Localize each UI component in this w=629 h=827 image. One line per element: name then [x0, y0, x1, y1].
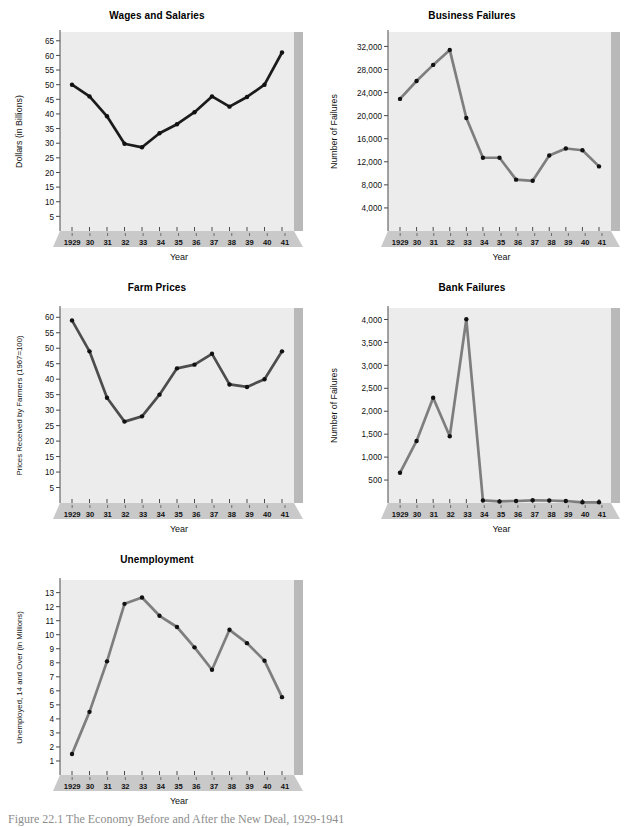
chart-panel-wages-and-salaries: Wages and Salaries 510152025303540455055… — [0, 0, 314, 272]
svg-text:38: 38 — [228, 238, 236, 247]
svg-text:3,000: 3,000 — [362, 362, 383, 371]
svg-text:34: 34 — [157, 238, 166, 247]
svg-text:37: 37 — [210, 238, 218, 247]
svg-text:6: 6 — [49, 687, 54, 696]
svg-text:55: 55 — [45, 329, 55, 338]
svg-text:5: 5 — [49, 213, 54, 222]
svg-text:10: 10 — [45, 631, 55, 640]
svg-text:Year: Year — [492, 524, 510, 534]
svg-text:3: 3 — [49, 729, 54, 738]
svg-text:30: 30 — [413, 510, 421, 519]
svg-text:4,000: 4,000 — [362, 204, 383, 213]
svg-text:10: 10 — [45, 468, 55, 477]
svg-text:40: 40 — [263, 238, 271, 247]
svg-text:45: 45 — [45, 360, 55, 369]
svg-text:1929: 1929 — [392, 510, 409, 519]
svg-text:41: 41 — [598, 510, 607, 519]
svg-text:37: 37 — [530, 238, 538, 247]
svg-text:39: 39 — [564, 510, 572, 519]
svg-text:30: 30 — [86, 510, 94, 519]
svg-text:35: 35 — [497, 510, 506, 519]
svg-text:500: 500 — [368, 476, 382, 485]
svg-text:30: 30 — [45, 139, 55, 148]
svg-text:45: 45 — [45, 96, 55, 105]
svg-text:20: 20 — [45, 437, 55, 446]
svg-text:13: 13 — [45, 589, 55, 598]
svg-text:30: 30 — [86, 238, 94, 247]
svg-text:1929: 1929 — [392, 238, 409, 247]
svg-text:32: 32 — [121, 238, 129, 247]
svg-text:50: 50 — [45, 81, 55, 90]
svg-text:12,000: 12,000 — [357, 158, 382, 167]
svg-text:65: 65 — [45, 37, 55, 46]
svg-text:36: 36 — [192, 510, 200, 519]
svg-text:36: 36 — [192, 782, 200, 791]
svg-text:38: 38 — [547, 510, 555, 519]
svg-text:Unemployed, 14 and Over (in Mi: Unemployed, 14 and Over (in Millions) — [15, 611, 24, 744]
svg-text:55: 55 — [45, 66, 55, 75]
svg-text:31: 31 — [430, 510, 439, 519]
svg-text:40: 40 — [581, 238, 589, 247]
svg-text:39: 39 — [245, 238, 253, 247]
svg-text:34: 34 — [157, 510, 166, 519]
svg-text:34: 34 — [480, 510, 489, 519]
svg-text:Year: Year — [170, 524, 188, 534]
svg-text:1: 1 — [49, 757, 54, 766]
svg-text:Prices Received by Farmers (19: Prices Received by Farmers (1967=100) — [15, 335, 24, 476]
svg-text:12: 12 — [45, 603, 55, 612]
svg-text:32,000: 32,000 — [357, 43, 382, 52]
svg-text:35: 35 — [174, 238, 183, 247]
chart-canvas-bank-failures: 5001,0001,5002,0002,5003,0003,5004,000Nu… — [315, 272, 629, 548]
svg-text:15: 15 — [45, 453, 55, 462]
svg-text:41: 41 — [281, 238, 290, 247]
svg-text:25: 25 — [45, 154, 55, 163]
svg-text:16,000: 16,000 — [357, 135, 382, 144]
svg-text:41: 41 — [281, 782, 290, 791]
svg-text:35: 35 — [45, 391, 55, 400]
svg-text:36: 36 — [514, 238, 522, 247]
svg-text:2,000: 2,000 — [362, 407, 383, 416]
svg-text:33: 33 — [463, 238, 471, 247]
chart-canvas-farm-prices: 51015202530354045505560Prices Received b… — [0, 272, 314, 548]
svg-text:7: 7 — [49, 673, 54, 682]
svg-text:38: 38 — [228, 510, 236, 519]
svg-text:4,000: 4,000 — [362, 316, 383, 325]
svg-text:41: 41 — [281, 510, 290, 519]
svg-text:32: 32 — [121, 782, 129, 791]
svg-text:33: 33 — [139, 510, 147, 519]
svg-text:40: 40 — [45, 110, 55, 119]
svg-text:39: 39 — [245, 510, 253, 519]
svg-text:Number of Failures: Number of Failures — [329, 94, 339, 169]
svg-text:5: 5 — [49, 484, 54, 493]
svg-text:50: 50 — [45, 344, 55, 353]
svg-text:38: 38 — [547, 238, 555, 247]
svg-text:60: 60 — [45, 52, 55, 61]
svg-text:1929: 1929 — [64, 238, 81, 247]
chart-panel-farm-prices: Farm Prices 51015202530354045505560Price… — [0, 272, 314, 544]
svg-text:1,500: 1,500 — [362, 430, 383, 439]
svg-text:35: 35 — [497, 238, 506, 247]
figure-caption: Figure 22.1 The Economy Before and After… — [8, 812, 618, 827]
svg-text:8: 8 — [49, 659, 54, 668]
svg-text:31: 31 — [103, 510, 112, 519]
svg-text:35: 35 — [174, 782, 183, 791]
svg-text:1929: 1929 — [64, 510, 81, 519]
svg-text:20: 20 — [45, 169, 55, 178]
svg-text:1,000: 1,000 — [362, 453, 383, 462]
svg-text:40: 40 — [45, 375, 55, 384]
svg-text:32: 32 — [446, 238, 454, 247]
svg-text:60: 60 — [45, 313, 55, 322]
svg-text:34: 34 — [480, 238, 489, 247]
svg-text:11: 11 — [46, 617, 55, 626]
chart-canvas-unemployment: 12345678910111213Unemployed, 14 and Over… — [0, 544, 314, 820]
svg-text:37: 37 — [210, 782, 218, 791]
svg-text:25: 25 — [45, 422, 55, 431]
svg-text:36: 36 — [514, 510, 522, 519]
svg-text:1929: 1929 — [64, 782, 81, 791]
svg-text:9: 9 — [49, 645, 54, 654]
svg-text:30: 30 — [86, 782, 94, 791]
svg-text:Year: Year — [170, 252, 188, 262]
svg-text:31: 31 — [430, 238, 439, 247]
svg-text:2: 2 — [49, 743, 54, 752]
